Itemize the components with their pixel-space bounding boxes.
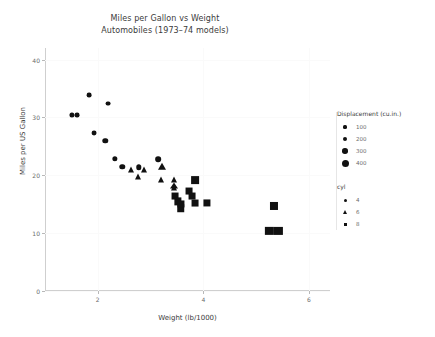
data-point-square xyxy=(270,202,278,210)
legend-size-label: 300 xyxy=(356,148,367,154)
y-tick-mark xyxy=(42,175,45,176)
legend-size-key xyxy=(337,137,353,141)
legend-shape-key xyxy=(337,223,353,226)
legend-shape-row: 8 xyxy=(337,218,429,230)
gridline-vertical xyxy=(98,48,99,291)
x-axis-label: Weight (lb/1000) xyxy=(45,314,330,322)
legend-spacer xyxy=(337,169,429,183)
legend-shape-rows: 468 xyxy=(337,194,429,230)
legend-shape-row: 4 xyxy=(337,194,429,206)
data-point-square xyxy=(191,176,199,184)
data-point-circle xyxy=(112,156,117,161)
legend-panel: Displacement (cu.in.) 100200300400 cyl 4… xyxy=(337,110,429,230)
circle-icon xyxy=(344,199,347,202)
legend-shape-label: 8 xyxy=(356,221,360,227)
gridline-horizontal xyxy=(45,233,330,234)
legend-size-row: 400 xyxy=(337,157,429,169)
y-axis-label: Miles per US Gallon xyxy=(19,71,27,211)
legend-shape-key xyxy=(337,210,353,214)
circle-icon xyxy=(343,137,347,141)
legend-size-label: 200 xyxy=(356,136,367,142)
circle-icon xyxy=(342,160,349,167)
x-tick-mark xyxy=(98,291,99,294)
data-point-triangle xyxy=(171,184,177,190)
legend-size-row: 200 xyxy=(337,133,429,145)
data-point-triangle xyxy=(171,176,177,182)
gridline-vertical xyxy=(203,48,204,291)
gridline-horizontal xyxy=(45,117,330,118)
gridline-horizontal xyxy=(45,60,330,61)
data-point-triangle xyxy=(135,173,141,179)
legend-shape-key xyxy=(337,199,353,202)
data-point-triangle xyxy=(158,176,164,182)
gridline-vertical xyxy=(309,48,310,291)
data-point-square xyxy=(203,199,210,206)
plot-panel: 010203040 246 xyxy=(45,48,330,291)
y-tick-mark xyxy=(42,117,45,118)
data-point-square xyxy=(265,227,273,235)
y-tick-label: 30 xyxy=(32,114,40,121)
data-point-square xyxy=(274,227,282,235)
legend-shape-label: 6 xyxy=(356,209,360,215)
x-tick-label: 4 xyxy=(201,296,205,303)
legend-size-row: 300 xyxy=(337,145,429,157)
triangle-icon xyxy=(343,210,347,214)
y-tick-mark xyxy=(42,233,45,234)
circle-icon xyxy=(342,148,348,154)
legend-size-label: 100 xyxy=(356,124,367,130)
legend-size-key xyxy=(337,148,353,154)
legend-size-title: Displacement (cu.in.) xyxy=(337,110,429,117)
x-tick-label: 2 xyxy=(96,296,100,303)
x-tick-label: 6 xyxy=(307,296,311,303)
data-point-triangle xyxy=(158,163,166,170)
legend-size-key xyxy=(337,160,353,167)
data-point-circle xyxy=(87,92,92,97)
y-tick-label: 10 xyxy=(32,230,40,237)
data-point-square xyxy=(191,200,198,207)
square-icon xyxy=(344,223,347,226)
data-point-square xyxy=(177,201,184,208)
gridline-horizontal xyxy=(45,175,330,176)
x-tick-mark xyxy=(203,291,204,294)
data-point-circle xyxy=(75,113,80,118)
data-point-circle xyxy=(102,138,107,143)
y-tick-label: 40 xyxy=(32,56,40,63)
legend-size-label: 400 xyxy=(356,160,367,166)
data-point-triangle xyxy=(141,166,147,172)
x-tick-mark xyxy=(309,291,310,294)
legend-shape-title: cyl xyxy=(337,183,429,190)
chart-subtitle: Automobiles (1973–74 models) xyxy=(0,25,330,37)
y-axis-line xyxy=(45,48,46,291)
y-tick-label: 0 xyxy=(36,288,40,295)
page-title: Miles per Gallon vs Weight xyxy=(0,13,330,25)
legend-size-rows: 100200300400 xyxy=(337,121,429,169)
data-point-square xyxy=(188,193,195,200)
y-tick-mark xyxy=(42,291,45,292)
gridline-horizontal xyxy=(45,291,330,292)
data-point-circle xyxy=(120,164,125,169)
circle-icon xyxy=(343,125,346,128)
legend-size-key xyxy=(337,125,353,128)
y-tick-mark xyxy=(42,60,45,61)
legend-shape-row: 6 xyxy=(337,206,429,218)
legend-size-row: 100 xyxy=(337,121,429,133)
data-point-circle xyxy=(106,101,111,106)
data-point-circle xyxy=(92,131,97,136)
data-point-triangle xyxy=(128,166,134,172)
data-point-circle xyxy=(156,156,162,162)
y-tick-label: 20 xyxy=(32,172,40,179)
legend-shape-label: 4 xyxy=(356,197,360,203)
chart-title-block: Miles per Gallon vs Weight Automobiles (… xyxy=(0,13,330,37)
